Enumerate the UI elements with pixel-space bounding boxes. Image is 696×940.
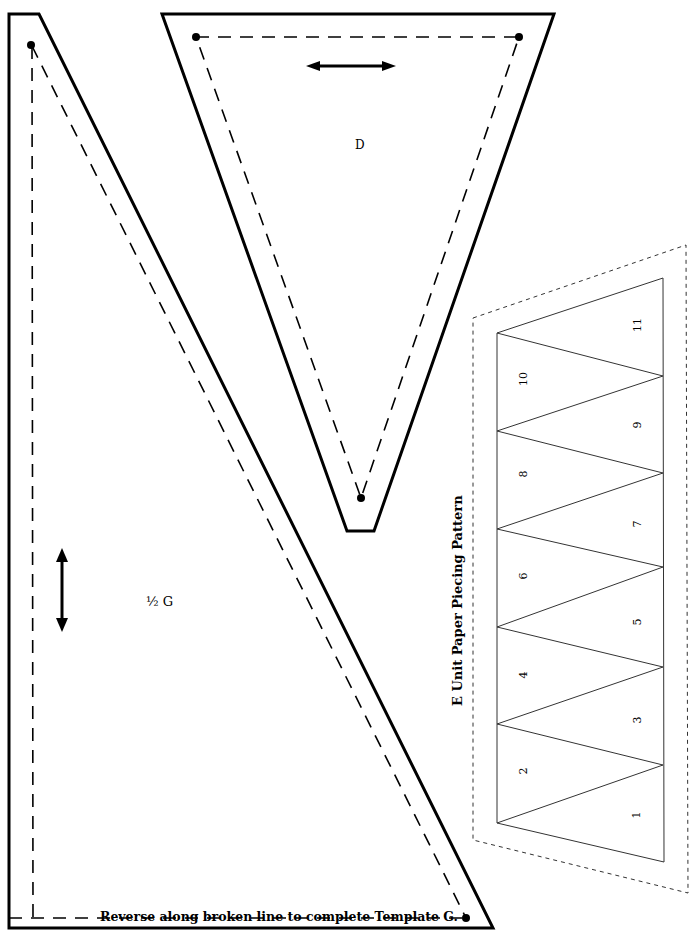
piece-number: 6 <box>517 573 530 580</box>
e-unit-seam-allowance <box>473 245 688 893</box>
pattern-sheet: ½ G Reverse along broken line to complet… <box>0 0 696 940</box>
grainline-arrow-icon <box>56 548 68 632</box>
template-g-dot-top <box>27 41 35 49</box>
template-d-cut-line <box>162 14 554 531</box>
template-g-cut-line <box>9 14 493 928</box>
piece-number: 4 <box>517 672 530 679</box>
template-d-label: D <box>355 138 365 152</box>
piece-number: 10 <box>517 372 530 386</box>
piece-number: 3 <box>631 717 644 724</box>
grainline-arrow-icon <box>306 61 396 71</box>
piece-number: 5 <box>631 619 644 626</box>
template-g-note: Reverse along broken line to complete Te… <box>100 909 458 924</box>
piece-number: 9 <box>631 422 644 429</box>
e-unit-title: E Unit Paper Piecing Pattern <box>450 495 465 706</box>
template-d-dot-bottom <box>357 494 365 502</box>
e-unit-pattern: E Unit Paper Piecing Pattern 1 2 3 4 5 6… <box>450 245 688 893</box>
template-g-label: ½ G <box>146 594 173 609</box>
template-d: D <box>162 14 554 531</box>
piece-number: 2 <box>517 768 530 775</box>
piece-numbers: 1 2 3 4 5 6 7 8 9 10 11 <box>517 318 644 819</box>
piece-number: 7 <box>631 521 644 528</box>
template-d-dot-left <box>192 33 200 41</box>
template-g-dot-bottom <box>462 914 470 922</box>
template-g-half: ½ G Reverse along broken line to complet… <box>9 14 493 928</box>
piece-number: 11 <box>631 318 644 332</box>
template-g-reverse-line <box>32 46 33 918</box>
piece-number: 1 <box>630 812 643 819</box>
piece-number: 8 <box>517 471 530 478</box>
template-g-seam-diagonal <box>32 46 466 918</box>
template-d-dot-right <box>515 33 523 41</box>
